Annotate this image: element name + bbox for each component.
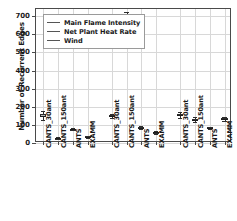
legend-item-2: Wind — [47, 36, 140, 45]
y-tick-mark — [32, 89, 36, 90]
x-tick-label: EXAMM — [226, 121, 234, 148]
legend-swatch-icon — [47, 40, 60, 41]
legend: Main Flame Intensity Net Plant Heat Rate… — [43, 14, 145, 49]
gridline-horizontal — [36, 52, 230, 53]
boxplot-figure: Number of Recurrent Edges 01002003004005… — [0, 0, 237, 221]
y-tick-mark — [32, 71, 36, 72]
x-tick-label: ANTS — [75, 129, 83, 148]
y-tick-label: 600 — [15, 30, 30, 38]
legend-item-1: Net Plant Heat Rate — [47, 27, 140, 36]
x-tick-label: CANTS_30ant — [45, 100, 53, 148]
x-tick-label: CANTS_150ant — [197, 95, 205, 148]
y-tick-label: 0 — [25, 139, 30, 147]
y-tick-label: 700 — [15, 12, 30, 20]
y-tick-mark — [32, 107, 36, 108]
legend-label: Net Plant Heat Rate — [64, 28, 136, 36]
legend-item-0: Main Flame Intensity — [47, 18, 140, 27]
y-tick-mark — [32, 143, 36, 144]
y-tick-mark — [32, 16, 36, 17]
y-tick-label: 100 — [15, 121, 30, 129]
legend-label: Main Flame Intensity — [64, 19, 140, 27]
box-plot — [207, 9, 213, 143]
x-tick-label: CANTS_30ant — [113, 100, 121, 148]
y-tick-label: 500 — [15, 48, 30, 56]
legend-swatch-icon — [47, 22, 60, 23]
x-tick-label: ANTS — [211, 129, 219, 148]
x-tick-label: EXAMM — [158, 121, 166, 148]
legend-swatch-icon — [47, 31, 60, 32]
x-tick-label: EXAMM — [89, 121, 97, 148]
x-tick-label: CANTS_150ant — [128, 95, 136, 148]
y-tick-mark — [32, 125, 36, 126]
y-tick-label: 400 — [15, 67, 30, 75]
gridline-horizontal — [36, 71, 230, 72]
gridline-horizontal — [36, 89, 230, 90]
y-tick-mark — [32, 34, 36, 35]
y-tick-label: 200 — [15, 103, 30, 111]
x-tick-label: CANTS_150ant — [60, 95, 68, 148]
x-tick-label: ANTS — [143, 129, 151, 148]
y-tick-mark — [32, 52, 36, 53]
y-tick-label: 300 — [15, 85, 30, 93]
legend-label: Wind — [64, 37, 83, 45]
x-tick-label: CANTS_30ant — [182, 100, 190, 148]
